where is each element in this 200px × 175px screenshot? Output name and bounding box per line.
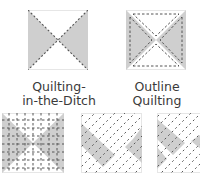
label-line-1: Outline (112, 80, 200, 94)
diagram-grid-quilting (2, 113, 64, 173)
diagram-outline-quilting (126, 10, 186, 70)
diagram-quilting-in-the-ditch (28, 10, 88, 70)
label-outline-quilting: Outline Quilting (112, 80, 200, 108)
quilt-block-outline-icon (126, 10, 186, 70)
quilt-block-grid-icon (2, 113, 64, 173)
label-line-1: Quilting- (14, 80, 104, 94)
diagram-diagonal-line-quilting (81, 113, 142, 173)
quilt-block-diagonal-cropped-icon (157, 113, 200, 173)
label-line-2: in-the-Ditch (14, 94, 104, 108)
diagram-diagonal-line-quilting-cropped (157, 113, 200, 173)
quilt-block-diagonal-icon (81, 113, 142, 173)
quilt-block-ditch-icon (28, 10, 88, 70)
label-line-2: Quilting (112, 94, 200, 108)
label-quilting-in-the-ditch: Quilting- in-the-Ditch (14, 80, 104, 108)
